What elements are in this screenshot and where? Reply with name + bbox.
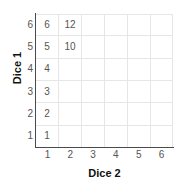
y-tick-label: 2 [20, 103, 33, 125]
grid-cell [151, 59, 173, 80]
grid-cell [151, 14, 173, 35]
grid-cell [105, 126, 128, 147]
grid-cell [128, 59, 151, 80]
y-axis-tick-labels: 6 5 4 3 2 1 [20, 14, 33, 147]
grid-cell [82, 36, 105, 57]
grid-cell [105, 36, 128, 57]
x-tick-label: 5 [127, 150, 150, 164]
grid-cell [82, 59, 105, 80]
grid-cell [128, 36, 151, 57]
grid-cell: 6 [36, 14, 59, 35]
grid-cell: 1 [36, 126, 59, 147]
grid-cell [151, 81, 173, 102]
y-tick-label: 3 [20, 81, 33, 103]
grid-cell [59, 126, 82, 147]
y-tick-label: 6 [20, 14, 33, 36]
y-tick-label: 1 [20, 125, 33, 147]
grid-cell: 12 [59, 14, 82, 35]
grid-cell [128, 81, 151, 102]
x-axis-tick-labels: 1 2 3 4 5 6 [36, 150, 173, 164]
x-tick-label: 6 [150, 150, 173, 164]
table-row: 5 10 [36, 36, 173, 58]
grid-cell [128, 14, 151, 35]
grid-cell [128, 103, 151, 124]
grid-cell: 2 [36, 103, 59, 124]
table-row: 2 [36, 103, 173, 125]
grid-cell [82, 126, 105, 147]
grid-cell: 5 [36, 36, 59, 57]
y-tick-label: 5 [20, 36, 33, 58]
table-row: 6 12 [36, 14, 173, 36]
grid-cell [105, 14, 128, 35]
plot-area: 6 12 5 10 4 [36, 14, 173, 147]
grid-cell [59, 81, 82, 102]
y-axis-line [35, 13, 36, 148]
x-tick-label: 3 [82, 150, 105, 164]
grid: 6 12 5 10 4 [36, 14, 173, 147]
grid-cell [151, 126, 173, 147]
grid-cell [151, 103, 173, 124]
table-row: 4 [36, 59, 173, 81]
grid-cell [82, 81, 105, 102]
grid-cell [82, 103, 105, 124]
x-tick-label: 2 [59, 150, 82, 164]
table-row: 1 [36, 126, 173, 147]
grid-cell: 3 [36, 81, 59, 102]
grid-cell [128, 126, 151, 147]
grid-cell [82, 14, 105, 35]
x-axis-title: Dice 2 [36, 167, 173, 179]
grid-cell [59, 103, 82, 124]
grid-cell: 4 [36, 59, 59, 80]
grid-cell [59, 59, 82, 80]
y-tick-label: 4 [20, 58, 33, 80]
grid-cell: 10 [59, 36, 82, 57]
grid-cell [151, 36, 173, 57]
table-row: 3 [36, 81, 173, 103]
grid-cell [105, 81, 128, 102]
x-tick-label: 4 [104, 150, 127, 164]
grid-cell [105, 103, 128, 124]
grid-cell [105, 59, 128, 80]
dice-sum-grid-chart: Dice 1 6 5 4 3 2 1 6 12 5 10 [0, 0, 187, 186]
x-axis-line [35, 147, 174, 148]
x-tick-label: 1 [36, 150, 59, 164]
